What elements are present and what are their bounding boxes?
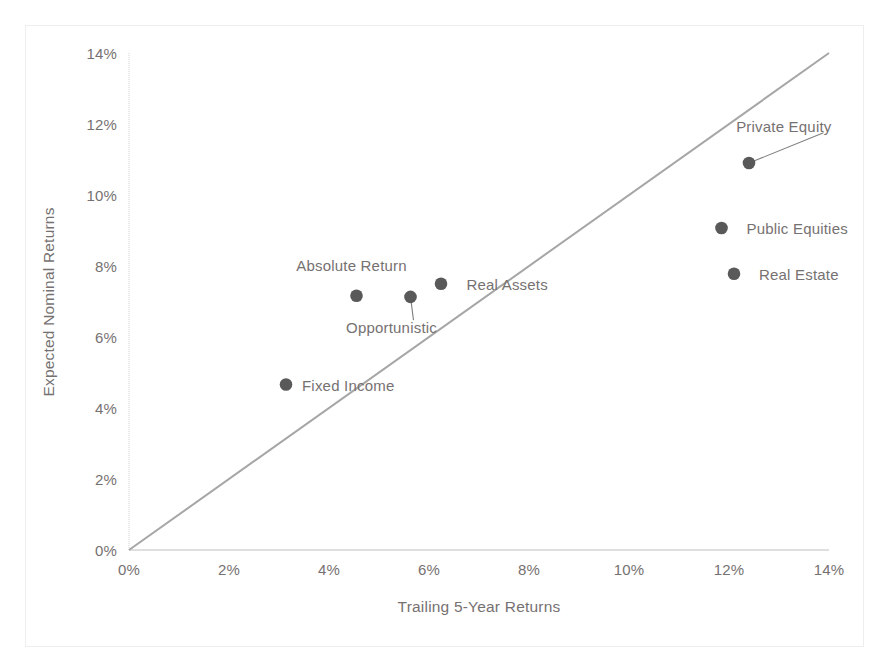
x-axis-title: Trailing 5-Year Returns bbox=[398, 598, 561, 616]
x-tick-label: 6% bbox=[418, 561, 440, 578]
x-tick-label: 14% bbox=[814, 561, 845, 578]
point-label: Opportunistic bbox=[346, 319, 437, 336]
y-tick-label: 0% bbox=[56, 542, 117, 559]
y-tick-label: 6% bbox=[56, 329, 117, 346]
y-tick-label: 8% bbox=[56, 258, 117, 275]
point-label: Absolute Return bbox=[296, 257, 407, 274]
x-tick-label: 10% bbox=[614, 561, 645, 578]
x-tick-label: 2% bbox=[218, 561, 240, 578]
y-axis-title: Expected Nominal Returns bbox=[40, 207, 58, 396]
y-tick-label: 4% bbox=[56, 400, 117, 417]
chart-container: Expected Nominal Returns Trailing 5-Year… bbox=[25, 25, 864, 647]
y-tick-label: 14% bbox=[56, 45, 117, 62]
point-label: Fixed Income bbox=[302, 376, 394, 393]
point-label: Private Equity bbox=[736, 117, 831, 134]
point-label: Public Equities bbox=[747, 220, 848, 237]
identity-reference-line bbox=[129, 53, 829, 550]
x-tick-label: 12% bbox=[714, 561, 745, 578]
y-tick-label: 2% bbox=[56, 471, 117, 488]
point-label: Real Assets bbox=[467, 275, 548, 292]
y-tick-label: 10% bbox=[56, 187, 117, 204]
point-label: Real Estate bbox=[759, 265, 839, 282]
x-tick-label: 8% bbox=[518, 561, 540, 578]
y-tick-label: 12% bbox=[56, 116, 117, 133]
x-tick-label: 4% bbox=[318, 561, 340, 578]
x-tick-label: 0% bbox=[118, 561, 140, 578]
